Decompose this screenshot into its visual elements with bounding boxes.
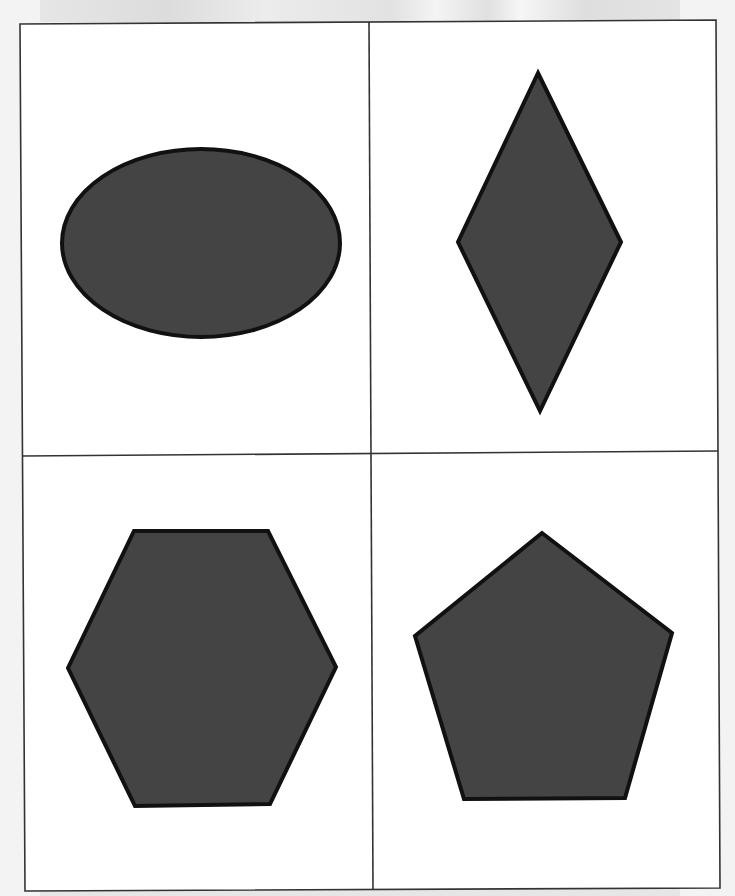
shape-sheet	[0, 0, 735, 896]
ellipse-shape	[62, 149, 340, 337]
